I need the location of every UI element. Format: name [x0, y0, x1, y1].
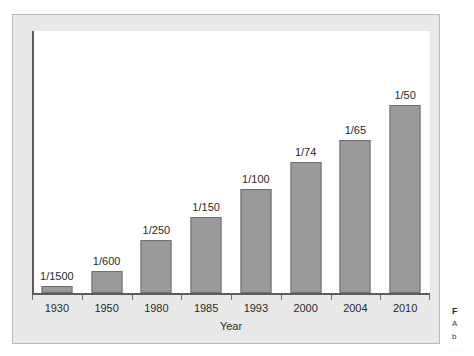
bars-layer: 1/15001/6001/2501/1501/1001/741/65Projec… — [32, 31, 430, 295]
bar-value-label-1930: 1/1500 — [40, 271, 74, 282]
bar-group-2000: 1/74 — [281, 31, 331, 293]
x-tick-label-1930: 1930 — [32, 301, 82, 315]
chart-panel: 1/15001/6001/2501/1501/1001/741/65Projec… — [12, 14, 440, 344]
caption-fragment: F A b — [452, 306, 474, 352]
x-axis-tick-labels: 19301950198019851993200020042010 — [32, 301, 430, 317]
x-tick-label-1950: 1950 — [82, 301, 132, 315]
bar-value-label-2010: 1/50 — [394, 90, 415, 101]
x-tick-edge-1 — [429, 295, 430, 300]
x-tick-1 — [82, 295, 83, 300]
bar-group-1950: 1/600 — [82, 31, 132, 293]
bar-group-1980: 1/250 — [132, 31, 182, 293]
x-tick-5 — [281, 295, 282, 300]
bar-value-label-1950: 1/600 — [93, 256, 121, 267]
bar-1930 — [41, 286, 72, 293]
bar-group-2004: 1/65 — [331, 31, 381, 293]
x-tick-label-1993: 1993 — [231, 301, 281, 315]
bar-1980 — [141, 240, 172, 293]
x-tick-7 — [380, 295, 381, 300]
x-tick-label-1985: 1985 — [181, 301, 231, 315]
bar-1993 — [240, 189, 271, 293]
bar-value-label-1985: 1/150 — [192, 202, 220, 213]
bar-2010 — [390, 105, 421, 293]
x-axis-ticks — [32, 295, 430, 300]
bar-group-2010: Projected1/50 — [380, 31, 430, 293]
x-tick-label-2010: 2010 — [380, 301, 430, 315]
bar-2000 — [290, 162, 321, 293]
bar-value-label-2004: 1/65 — [345, 125, 366, 136]
bar-1950 — [91, 271, 122, 293]
bar-group-1930: 1/1500 — [32, 31, 82, 293]
bar-value-label-1993: 1/100 — [242, 174, 270, 185]
bar-value-label-1980: 1/250 — [143, 225, 171, 236]
bar-value-label-2000: 1/74 — [295, 147, 316, 158]
caption-line-1: A — [452, 319, 457, 328]
x-tick-edge-0 — [32, 295, 33, 300]
x-tick-4 — [231, 295, 232, 300]
bar-group-1985: 1/150 — [181, 31, 231, 293]
bar-group-1993: 1/100 — [231, 31, 281, 293]
x-tick-6 — [331, 295, 332, 300]
bar-1985 — [191, 217, 222, 293]
bar-2004 — [340, 140, 371, 293]
x-tick-3 — [181, 295, 182, 300]
x-axis-title: Year — [32, 320, 430, 332]
x-tick-label-2000: 2000 — [281, 301, 331, 315]
x-tick-label-1980: 1980 — [132, 301, 182, 315]
caption-line-2: b — [452, 332, 456, 341]
caption-figure-number: F — [452, 306, 458, 316]
x-tick-label-2004: 2004 — [331, 301, 381, 315]
figure-root: 1/15001/6001/2501/1501/1001/741/65Projec… — [0, 0, 474, 356]
x-tick-2 — [132, 295, 133, 300]
plot-area: 1/15001/6001/2501/1501/1001/741/65Projec… — [32, 31, 430, 295]
